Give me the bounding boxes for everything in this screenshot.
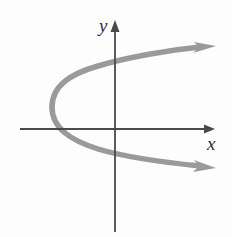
parabola-lower-branch: [52, 107, 200, 166]
y-axis-label: y: [99, 16, 107, 35]
y-axis: [111, 20, 120, 232]
parabola-figure: y x: [0, 0, 232, 237]
parabola-upper-branch: [52, 47, 200, 107]
x-axis: [20, 125, 215, 134]
graph-canvas: [0, 0, 232, 237]
y-axis-arrowhead: [111, 20, 120, 32]
parabola-curve: [52, 42, 216, 172]
x-axis-label: x: [207, 134, 215, 153]
